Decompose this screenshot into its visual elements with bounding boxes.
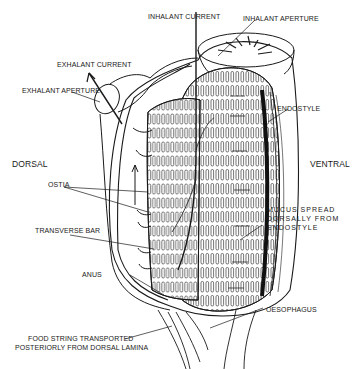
label-food-line2: POSTERIORLY FROM DORSAL LAMINA (15, 343, 148, 352)
oesophagus-stalk (158, 310, 256, 369)
exhalant-current-arrow (89, 73, 122, 124)
label-anus: ANUS (82, 270, 102, 279)
label-food-line1: FOOD STRING TRANSPORTED (28, 334, 134, 343)
inhalant-aperture-slits (218, 36, 272, 54)
label-inhalant-aperture: INHALANT APERTURE (243, 14, 319, 23)
label-exhalant-current: EXHALANT CURRENT (57, 60, 132, 69)
label-exhalant-aperture: EXHALANT APERTURE (22, 86, 100, 95)
label-oesophagus: OESOPHAGUS (266, 305, 317, 314)
label-dorsal: DORSAL (12, 160, 48, 169)
label-inhalant-current: INHALANT CURRENT (148, 12, 220, 21)
label-ostia: OSTIA (48, 180, 70, 189)
label-ventral: VENTRAL (310, 160, 350, 169)
label-transverse-bar: TRANSVERSE BAR (35, 226, 100, 235)
label-mucus-line3: ENDOSTYLE (267, 223, 318, 233)
basket-flap (140, 95, 205, 305)
label-endostyle: ENDOSTYLE (277, 104, 320, 113)
